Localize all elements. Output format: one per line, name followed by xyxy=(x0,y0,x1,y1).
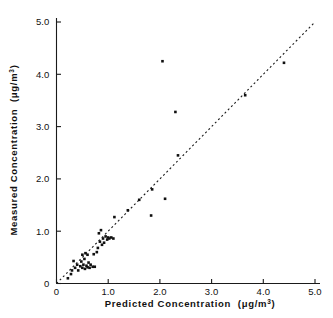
x-axis-tick-labels: 01.02.03.04.05.0 xyxy=(54,286,322,297)
y-axis-title: Measured Concentration (μg/m3) xyxy=(8,64,20,235)
x-tick-label-4: 4.0 xyxy=(257,286,271,297)
data-point xyxy=(74,267,77,270)
y-tick-label-4: 4.0 xyxy=(36,69,50,80)
data-point xyxy=(88,267,91,270)
x-axis-title: Predicted Concentration (μg/m3) xyxy=(105,298,276,310)
x-tick-label-1: 1.0 xyxy=(101,286,115,297)
data-point xyxy=(138,199,141,202)
data-point xyxy=(97,247,100,250)
data-point xyxy=(113,216,116,219)
data-point xyxy=(102,237,105,240)
y-tick-label-0: 0 xyxy=(44,278,49,289)
data-point xyxy=(82,263,85,266)
data-point xyxy=(151,188,154,191)
data-point xyxy=(112,237,115,240)
data-point xyxy=(177,154,180,157)
data-point xyxy=(164,197,167,200)
data-point xyxy=(81,253,84,256)
data-point xyxy=(72,260,75,263)
scatter-points xyxy=(67,60,286,280)
identity-reference-line xyxy=(57,22,316,284)
data-point xyxy=(99,240,102,243)
data-point xyxy=(150,214,153,217)
data-point xyxy=(67,277,70,280)
data-point xyxy=(174,111,177,114)
data-point xyxy=(80,260,83,263)
x-tick-label-0: 0 xyxy=(54,286,59,297)
y-tick-label-2: 2.0 xyxy=(36,173,50,184)
data-point xyxy=(127,209,130,212)
data-point xyxy=(283,61,286,64)
data-point xyxy=(86,253,89,256)
data-point xyxy=(104,235,107,238)
plot-canvas: 01.02.03.04.05.0 01.02.03.04.05.0 Predic… xyxy=(0,0,333,318)
data-point xyxy=(81,267,84,270)
x-tick-label-5: 5.0 xyxy=(308,286,322,297)
data-point xyxy=(71,269,74,272)
y-axis-ticks xyxy=(57,22,62,284)
data-point xyxy=(100,229,103,232)
data-point xyxy=(76,263,79,266)
scatter-plot-figure: 01.02.03.04.05.0 01.02.03.04.05.0 Predic… xyxy=(0,0,333,318)
x-tick-label-2: 2.0 xyxy=(153,286,167,297)
data-point xyxy=(161,60,164,63)
x-tick-label-3: 3.0 xyxy=(205,286,219,297)
data-point xyxy=(93,265,96,268)
x-axis-ticks xyxy=(57,279,316,284)
data-point xyxy=(77,269,80,272)
data-point xyxy=(70,273,73,276)
data-point xyxy=(98,232,101,235)
data-point xyxy=(83,258,86,261)
y-tick-label-3: 3.0 xyxy=(36,121,50,132)
data-point xyxy=(84,268,87,271)
reference-line xyxy=(57,22,316,284)
data-point xyxy=(103,241,106,244)
data-point xyxy=(92,253,95,256)
y-tick-label-1: 1.0 xyxy=(36,226,50,237)
data-point xyxy=(244,94,247,97)
y-axis-tick-labels: 01.02.03.04.05.0 xyxy=(36,16,50,289)
y-tick-label-5: 5.0 xyxy=(36,16,50,27)
data-point xyxy=(96,251,99,254)
